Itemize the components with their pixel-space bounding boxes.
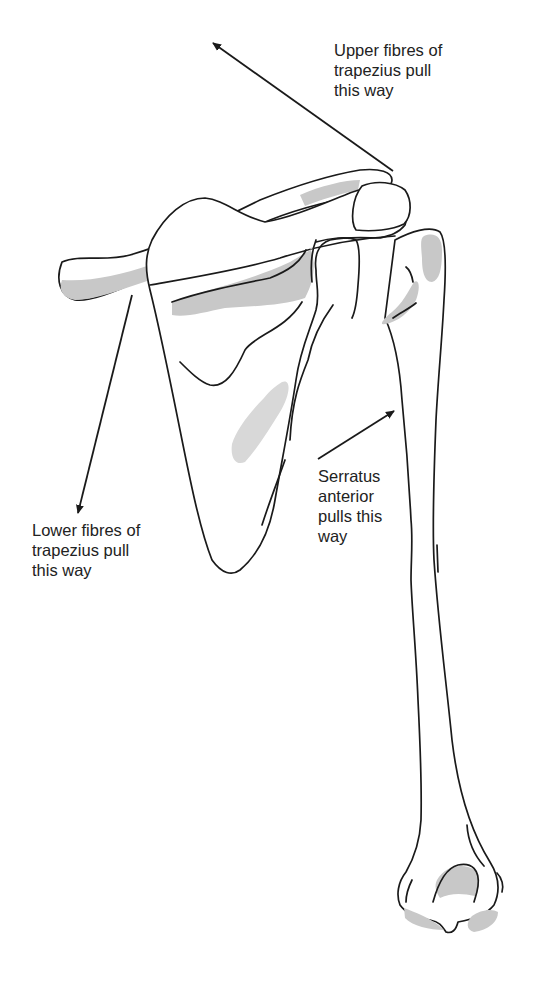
label-line: way <box>318 526 382 546</box>
lower-trapezius-arrow <box>78 295 132 513</box>
serratus-anterior-arrow <box>318 411 394 459</box>
label-serratus-anterior: Serratus anterior pulls this way <box>318 466 382 546</box>
label-line: Lower fibres of <box>32 520 140 540</box>
label-line: this way <box>32 560 140 580</box>
label-line: trapezius pull <box>32 540 140 560</box>
label-line: Serratus <box>318 466 382 486</box>
label-line: trapezius pull <box>334 60 442 80</box>
label-line: Upper fibres of <box>334 40 442 60</box>
label-line: anterior <box>318 486 382 506</box>
anatomy-illustration <box>0 0 543 994</box>
label-line: this way <box>334 80 442 100</box>
shoulder-girdle-diagram: Upper fibres of trapezius pull this way … <box>0 0 543 994</box>
label-line: pulls this <box>318 506 382 526</box>
label-lower-trapezius: Lower fibres of trapezius pull this way <box>32 520 140 580</box>
label-upper-trapezius: Upper fibres of trapezius pull this way <box>334 40 442 100</box>
humerus <box>382 229 503 932</box>
